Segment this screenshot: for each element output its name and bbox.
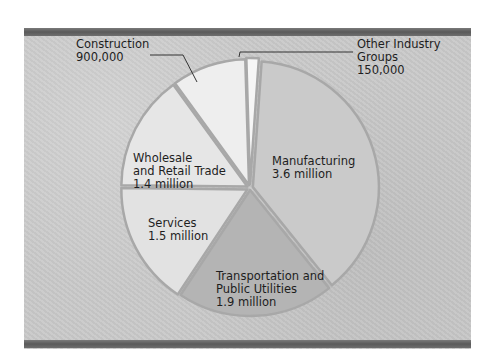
slice-label-line: 1.4 million xyxy=(133,177,193,191)
slice-label-line: Groups xyxy=(357,50,398,64)
slice-label-line: Transportation and xyxy=(215,269,324,283)
slice-label-line: 150,000 xyxy=(357,63,405,77)
slice-label-line: Manufacturing xyxy=(272,154,355,168)
slice-label-construction: Construction900,000 xyxy=(76,37,149,64)
slice-label-line: Construction xyxy=(76,37,149,51)
callout-line-other-industry-groups xyxy=(239,52,353,57)
slice-label-line: Other Industry xyxy=(357,37,441,51)
slice-label-other-industry-groups: Other IndustryGroups150,000 xyxy=(357,37,441,77)
slice-label-line: 900,000 xyxy=(76,50,124,64)
slice-label-line: 3.6 million xyxy=(272,167,332,181)
slice-label-line: and Retail Trade xyxy=(133,164,226,178)
pie-chart: Manufacturing3.6 millionTransportation a… xyxy=(0,0,495,361)
slice-label-line: 1.9 million xyxy=(216,295,276,309)
slice-label-line: Public Utilities xyxy=(216,282,297,296)
slice-label-line: Wholesale xyxy=(133,151,192,165)
slice-label-line: 1.5 million xyxy=(148,229,208,243)
slice-label-line: Services xyxy=(148,216,197,230)
